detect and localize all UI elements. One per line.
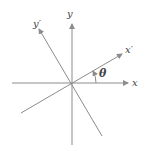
y-prime-axis-label: y′ bbox=[32, 18, 42, 29]
theta-angle-label: θ bbox=[99, 67, 107, 80]
x-axis-label: x bbox=[132, 77, 138, 88]
x-prime-axis-label: x′ bbox=[125, 44, 134, 55]
rotated-axes-diagram: x y x′ y′ θ bbox=[0, 0, 147, 151]
y-axis-label: y bbox=[66, 8, 73, 19]
angle-arc bbox=[93, 71, 96, 83]
